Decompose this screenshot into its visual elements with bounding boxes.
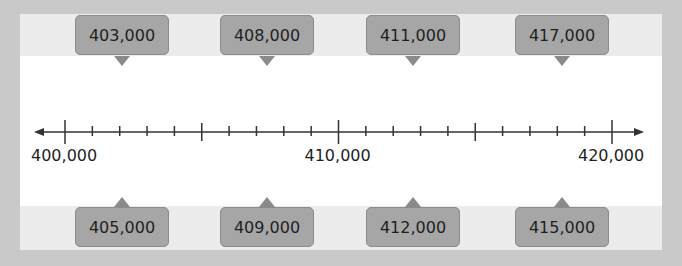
pointer-up-icon: [259, 197, 275, 207]
tick-label: 400,000: [31, 146, 97, 165]
tick-label: 420,000: [578, 146, 644, 165]
bottom-value-card[interactable]: 415,000: [515, 207, 609, 247]
bottom-value-card[interactable]: 409,000: [220, 207, 314, 247]
pointer-up-icon: [554, 197, 570, 207]
right-arrow-icon: [634, 128, 644, 136]
pointer-down-icon: [114, 56, 130, 66]
pointer-up-icon: [405, 197, 421, 207]
tick-label: 410,000: [305, 146, 371, 165]
bottom-value-card[interactable]: 405,000: [75, 207, 169, 247]
top-value-card[interactable]: 403,000: [75, 15, 169, 55]
left-arrow-icon: [34, 128, 44, 136]
pointer-down-icon: [405, 56, 421, 66]
top-value-card[interactable]: 411,000: [366, 15, 460, 55]
pointer-up-icon: [114, 197, 130, 207]
pointer-down-icon: [259, 56, 275, 66]
ticks: [65, 120, 612, 144]
top-value-card[interactable]: 408,000: [220, 15, 314, 55]
bottom-value-card[interactable]: 412,000: [366, 207, 460, 247]
pointer-down-icon: [554, 56, 570, 66]
top-value-card[interactable]: 417,000: [515, 15, 609, 55]
